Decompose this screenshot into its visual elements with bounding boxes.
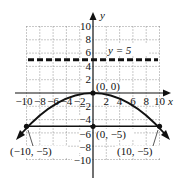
- directrix-label: y = 5: [107, 44, 132, 56]
- svg-text:−6: −6: [79, 128, 91, 140]
- right-leader-line: [153, 130, 158, 146]
- svg-text:2: 2: [86, 73, 92, 85]
- left-point-label: (−10, −5): [10, 145, 52, 158]
- y-axis-arrow-icon: [90, 12, 97, 20]
- right-point-label: (10, −5): [117, 145, 153, 158]
- svg-text:4: 4: [117, 95, 123, 107]
- svg-text:−2: −2: [74, 95, 86, 107]
- vertex-point: [90, 90, 95, 95]
- svg-text:−4: −4: [61, 95, 73, 107]
- svg-text:10: 10: [154, 95, 166, 107]
- svg-text:10: 10: [80, 20, 92, 32]
- svg-text:8: 8: [143, 95, 149, 107]
- svg-text:−10: −10: [15, 95, 33, 107]
- svg-text:6: 6: [86, 46, 92, 58]
- right-point: [157, 124, 162, 129]
- focus-label: (0, −5): [96, 128, 126, 141]
- parabola-graph: y x 10 8 6 4 2 −2 −4 −6 −8 −10 −10 −8 −6…: [0, 0, 185, 181]
- svg-text:6: 6: [130, 95, 136, 107]
- svg-text:2: 2: [104, 95, 110, 107]
- svg-text:−8: −8: [34, 95, 46, 107]
- svg-text:4: 4: [86, 60, 92, 72]
- x-tick-labels: −10 −8 −6 −4 −2 2 4 6 8 10: [10, 95, 166, 107]
- vertex-label: (0, 0): [96, 80, 120, 93]
- left-point: [24, 124, 29, 129]
- x-axis-label: x: [167, 95, 173, 107]
- svg-text:−6: −6: [47, 95, 59, 107]
- y-axis-label: y: [99, 9, 105, 21]
- svg-text:8: 8: [86, 33, 92, 45]
- left-leader-line: [28, 130, 33, 146]
- svg-text:−4: −4: [79, 113, 91, 125]
- svg-text:−8: −8: [79, 141, 91, 153]
- svg-text:−10: −10: [74, 154, 92, 166]
